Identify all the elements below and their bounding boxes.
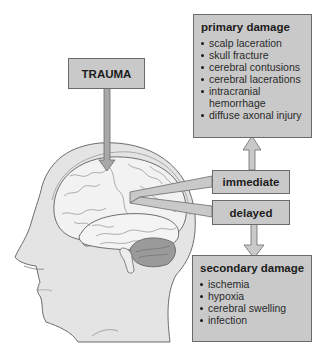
list-item: cerebral lacerations bbox=[201, 73, 305, 85]
list-item: cerebral contusions bbox=[201, 61, 305, 73]
list-item: scalp laceration bbox=[201, 37, 305, 49]
list-item: infection bbox=[200, 314, 305, 326]
primary-damage-title: primary damage bbox=[201, 21, 305, 33]
delayed-label: delayed bbox=[230, 207, 273, 219]
primary-damage-box: primary damage scalp laceration skull fr… bbox=[193, 14, 312, 138]
list-item: ischemia bbox=[200, 278, 305, 290]
down-arrow bbox=[244, 224, 264, 258]
list-item: skull fracture bbox=[201, 49, 305, 61]
list-item: diffuse axonal injury bbox=[201, 109, 305, 121]
secondary-damage-title: secondary damage bbox=[200, 262, 305, 274]
immediate-label: immediate bbox=[223, 176, 280, 188]
list-item: hypoxia bbox=[200, 290, 305, 302]
cerebellum bbox=[130, 238, 176, 267]
list-item: cerebral swelling bbox=[200, 302, 305, 314]
trauma-label: TRAUMA bbox=[82, 68, 132, 80]
up-arrow bbox=[243, 136, 261, 170]
list-item: intracranial hemorrhage bbox=[201, 85, 271, 109]
immediate-box: immediate bbox=[212, 170, 290, 194]
trauma-box: TRAUMA bbox=[68, 58, 145, 89]
secondary-damage-list: ischemia hypoxia cerebral swelling infec… bbox=[200, 278, 305, 326]
secondary-damage-box: secondary damage ischemia hypoxia cerebr… bbox=[192, 255, 312, 342]
primary-damage-list: scalp laceration skull fracture cerebral… bbox=[201, 37, 305, 121]
delayed-box: delayed bbox=[212, 200, 290, 225]
